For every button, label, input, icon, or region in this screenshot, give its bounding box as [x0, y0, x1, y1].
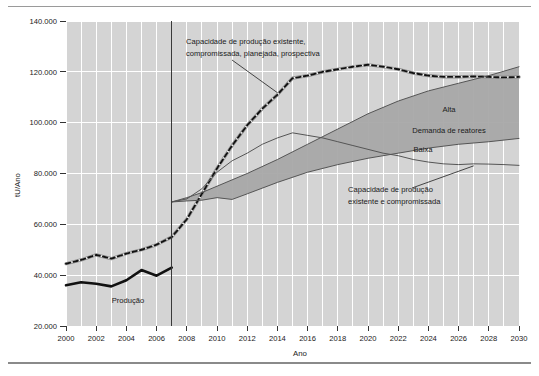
y-tick-label-120000: 120.000	[30, 68, 57, 77]
x-tick-label-2026: 2026	[450, 334, 467, 343]
x-tick-label-2028: 2028	[480, 334, 497, 343]
annotation-existing-capacity-line2: existente e compromissada	[348, 197, 441, 206]
series-label-baixa: Baixa	[414, 145, 434, 154]
y-tick-label-60000: 60.000	[34, 220, 57, 229]
x-tick-label-2010: 2010	[209, 334, 226, 343]
x-tick-label-2000: 2000	[58, 334, 75, 343]
series-label-producao: Produção	[112, 296, 145, 305]
x-tick-label-2014: 2014	[269, 334, 286, 343]
annotation-existing-capacity-line1: Capacidade de produção	[348, 185, 433, 194]
x-tick-label-2022: 2022	[390, 334, 407, 343]
x-axis-title: Ano	[293, 349, 308, 358]
x-tick-label-2016: 2016	[299, 334, 316, 343]
y-tick-label-140000: 140.000	[30, 17, 57, 26]
series-label-demanda-de-reatores: Demanda de reatores	[412, 126, 486, 135]
x-tick-label-2012: 2012	[239, 334, 256, 343]
y-tick-label-80000: 80.000	[34, 169, 57, 178]
annotation-prospective-capacity-line2: compromissada, planejada, prospectiva	[186, 49, 321, 58]
x-tick-label-2002: 2002	[88, 334, 105, 343]
x-tick-label-2020: 2020	[360, 334, 377, 343]
x-tick-label-2030: 2030	[511, 334, 528, 343]
top-divider-rule	[8, 6, 531, 7]
chart-canvas: 140.000 120.000 100.000 80.000 60.000 40…	[0, 0, 539, 376]
x-tick-label-2006: 2006	[148, 334, 165, 343]
x-tick-label-2008: 2008	[178, 334, 195, 343]
y-tick-label-40000: 40.000	[34, 271, 57, 280]
x-tick-label-2018: 2018	[329, 334, 346, 343]
annotation-prospective-capacity-line1: Capacidade de produção existente,	[186, 37, 305, 46]
x-tick-label-2024: 2024	[420, 334, 437, 343]
chart-figure: 140.000 120.000 100.000 80.000 60.000 40…	[0, 0, 539, 376]
bottom-divider-rule	[8, 362, 531, 364]
series-label-alta: Alta	[442, 105, 456, 114]
x-tick-label-2004: 2004	[118, 334, 135, 343]
y-axis-title: tU/Ano	[13, 172, 22, 196]
y-tick-label-100000: 100.000	[30, 118, 57, 127]
y-tick-label-20000: 20.000	[34, 322, 57, 331]
